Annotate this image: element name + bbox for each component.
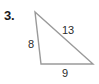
triangle-outline [35,12,93,64]
side-label-hypotenuse: 13 [62,24,74,36]
side-label-leg-b: 9 [62,67,68,79]
side-label-leg-a: 8 [28,38,34,50]
triangle-shape-icon [0,0,99,84]
triangle-figure: 3. 8 13 9 [0,0,99,84]
